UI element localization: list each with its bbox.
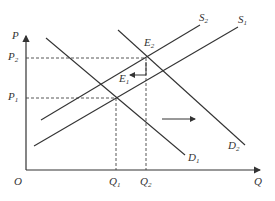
s2-label: S2 [199, 12, 208, 25]
d1-label: D1 [188, 152, 199, 165]
q1-label: Q1 [109, 176, 120, 189]
e2-label: E2 [144, 37, 154, 50]
p1-label: P1 [8, 91, 18, 104]
s1-label: S1 [238, 14, 247, 27]
origin-label: O [14, 176, 22, 187]
price-axis-label: P [12, 30, 19, 41]
demand-curve-d1 [46, 38, 185, 155]
d2-label: D2 [228, 140, 239, 153]
supply-curve-s1 [34, 27, 238, 146]
e1-label: E1 [119, 73, 129, 86]
diagram-canvas [0, 0, 275, 201]
supply-demand-diagram: O P Q P2 P1 Q1 Q2 S2 S1 D1 D2 E2 E1 [0, 0, 275, 201]
q2-label: Q2 [140, 176, 151, 189]
quantity-axis-label: Q [254, 176, 262, 187]
demand-curve-d2 [118, 30, 245, 145]
curves [34, 25, 245, 155]
p2-label: P2 [8, 51, 18, 64]
